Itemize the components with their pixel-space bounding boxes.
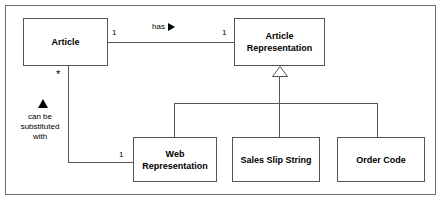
generalization-branch-order-code [377, 103, 378, 137]
hollow-triangle-generalization-icon [271, 66, 289, 77]
diagram-canvas: 1 1 has * 1 can be substituted with Arti… [0, 0, 442, 209]
class-box-order-code[interactable]: Order Code [337, 137, 425, 182]
multiplicity-article-representation-has-target: 1 [222, 28, 226, 37]
association-label-can-be-substituted-with: can be substituted with [8, 112, 72, 142]
generalization-stem [279, 75, 280, 104]
class-box-article[interactable]: Article [23, 18, 108, 66]
generalization-branch-web-representation [174, 103, 175, 137]
substituted-label-line-1: can be [8, 112, 72, 122]
class-box-sales-slip-string[interactable]: Sales Slip String [232, 137, 320, 182]
association-label-has-text: has [152, 22, 165, 31]
substituted-label-line-2: substituted [8, 122, 72, 132]
generalization-branch-sales-slip-string [279, 103, 280, 137]
multiplicity-web-representation-substituted-target: 1 [119, 150, 123, 159]
class-name-order-code: Order Code [356, 154, 406, 166]
generalization-bar [174, 103, 377, 104]
substituted-label-line-3: with [8, 132, 72, 142]
filled-right-triangle-icon [168, 23, 175, 31]
association-line-substituted-horizontal [68, 162, 133, 163]
class-name-web-representation-line-2: Representation [142, 160, 208, 172]
class-box-web-representation[interactable]: Web Representation [133, 137, 217, 182]
association-line-has [108, 42, 234, 43]
multiplicity-article-has-source: 1 [112, 28, 116, 37]
class-name-article-representation-line-2: Representation [247, 42, 313, 54]
class-name-article: Article [51, 36, 79, 48]
multiplicity-article-substituted-source: * [56, 68, 60, 80]
class-box-article-representation[interactable]: Article Representation [234, 18, 325, 66]
class-name-article-representation-line-1: Article [247, 30, 313, 42]
class-name-sales-slip-string: Sales Slip String [240, 154, 311, 166]
filled-up-triangle-icon [38, 99, 48, 108]
association-label-has: has [152, 22, 175, 31]
class-name-web-representation-line-1: Web [142, 148, 208, 160]
